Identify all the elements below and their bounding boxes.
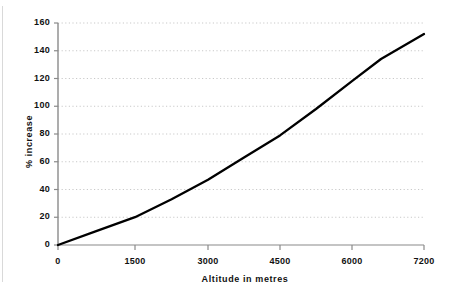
y-tick-label-20: 20 — [16, 211, 50, 221]
altitude-percent-increase-chart: 0 20 40 60 80 100 120 140 160 0 1500 300… — [0, 0, 454, 295]
data-line-percent-increase — [58, 34, 424, 245]
gridlines — [58, 23, 424, 217]
x-axis-ticks — [58, 245, 424, 250]
y-tick-label-100: 100 — [16, 100, 50, 110]
x-tick-label-7200: 7200 — [401, 256, 447, 266]
x-tick-label-4500: 4500 — [257, 256, 303, 266]
y-tick-label-160: 160 — [16, 17, 50, 27]
x-tick-label-6000: 6000 — [329, 256, 375, 266]
y-axis-title: % increase — [24, 115, 34, 168]
y-tick-label-120: 120 — [16, 73, 50, 83]
x-tick-label-0: 0 — [35, 256, 81, 266]
x-tick-label-1500: 1500 — [112, 256, 158, 266]
x-axis-title: Altitude in metres — [185, 274, 305, 284]
y-tick-label-40: 40 — [16, 184, 50, 194]
y-tick-label-140: 140 — [16, 45, 50, 55]
x-tick-label-3000: 3000 — [185, 256, 231, 266]
y-tick-label-0: 0 — [16, 239, 50, 249]
plot-canvas — [0, 0, 454, 295]
figure-page: 0 20 40 60 80 100 120 140 160 0 1500 300… — [0, 0, 454, 295]
